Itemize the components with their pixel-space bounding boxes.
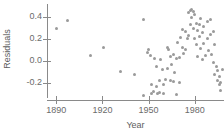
data-point xyxy=(179,36,182,39)
data-point xyxy=(159,58,162,61)
data-point xyxy=(162,92,165,95)
data-point xyxy=(150,83,153,86)
x-tick-mark xyxy=(195,96,196,104)
data-point xyxy=(218,75,221,78)
data-point xyxy=(89,54,92,57)
data-point xyxy=(206,20,209,23)
data-point xyxy=(202,25,205,28)
data-point xyxy=(196,29,199,32)
data-point xyxy=(207,49,210,52)
data-point xyxy=(172,80,175,83)
data-point xyxy=(164,78,167,81)
y-axis-title: Residuals xyxy=(2,18,12,80)
data-point xyxy=(182,52,185,55)
data-point xyxy=(155,65,158,68)
data-point xyxy=(172,53,175,56)
data-point xyxy=(209,18,212,21)
data-point xyxy=(210,53,213,56)
data-point xyxy=(186,37,189,40)
data-point xyxy=(173,71,176,74)
data-point xyxy=(169,55,172,58)
data-point xyxy=(199,47,202,50)
data-point xyxy=(202,42,205,45)
data-point xyxy=(147,48,150,51)
data-point xyxy=(193,13,196,16)
y-tick-label: -0.2 xyxy=(26,78,42,87)
data-point xyxy=(167,48,170,51)
data-point xyxy=(199,17,202,20)
data-point xyxy=(219,89,222,92)
data-point xyxy=(187,34,190,37)
data-point xyxy=(196,55,199,58)
y-tick-label: 0.4 xyxy=(29,12,42,21)
data-point xyxy=(155,85,158,88)
data-point xyxy=(215,65,218,68)
x-tick-mark xyxy=(149,96,150,104)
data-point xyxy=(195,43,198,46)
data-point xyxy=(176,41,179,44)
x-tick-label: 1920 xyxy=(92,106,112,115)
x-axis-title: Year xyxy=(47,120,224,130)
data-point xyxy=(66,19,69,22)
data-point xyxy=(162,83,165,86)
data-point xyxy=(213,43,216,46)
data-point xyxy=(212,61,215,64)
data-point xyxy=(212,30,215,33)
plot-area: 0.40.20.0-0.2 1890192019501980 Residuals… xyxy=(0,0,224,134)
data-point xyxy=(149,54,152,57)
data-point xyxy=(178,81,181,84)
x-tick-label: 1890 xyxy=(46,106,66,115)
y-tick-label: 0.0 xyxy=(29,56,42,65)
data-point xyxy=(166,67,169,70)
data-point xyxy=(153,57,156,60)
data-point xyxy=(158,79,161,82)
y-tick-label: 0.2 xyxy=(29,34,42,43)
data-point xyxy=(221,68,224,71)
data-point xyxy=(161,68,164,71)
y-tick-mark xyxy=(43,17,51,18)
x-axis-line xyxy=(47,100,224,101)
data-point xyxy=(198,23,201,26)
data-point xyxy=(152,90,155,93)
data-point xyxy=(102,46,105,49)
data-point xyxy=(133,73,136,76)
data-point xyxy=(219,81,222,84)
data-point xyxy=(190,16,193,19)
data-point xyxy=(189,23,192,26)
data-point xyxy=(175,93,178,96)
x-tick-label: 1950 xyxy=(139,106,159,115)
x-tick-label: 1980 xyxy=(185,106,205,115)
data-point xyxy=(170,63,173,66)
data-point xyxy=(204,54,207,57)
x-tick-mark xyxy=(56,96,57,104)
data-point xyxy=(201,31,204,34)
data-point xyxy=(206,37,209,40)
data-point xyxy=(184,30,187,33)
data-point xyxy=(158,91,161,94)
data-point xyxy=(142,94,145,97)
residuals-scatter-chart: 0.40.20.0-0.2 1890192019501980 Residuals… xyxy=(0,0,224,134)
data-point xyxy=(142,18,145,21)
y-tick-mark xyxy=(43,83,51,84)
data-point xyxy=(178,56,181,59)
data-point xyxy=(55,27,58,30)
x-tick-mark xyxy=(102,96,103,104)
y-tick-mark xyxy=(43,61,51,62)
y-tick-mark xyxy=(43,39,51,40)
data-point xyxy=(119,70,122,73)
data-point xyxy=(216,69,219,72)
data-point xyxy=(201,58,204,61)
y-axis-line xyxy=(47,4,48,98)
data-point xyxy=(198,35,201,38)
data-point xyxy=(184,48,187,51)
data-point xyxy=(213,73,216,76)
data-point xyxy=(209,33,212,36)
data-point xyxy=(193,37,196,40)
data-point xyxy=(192,27,195,30)
